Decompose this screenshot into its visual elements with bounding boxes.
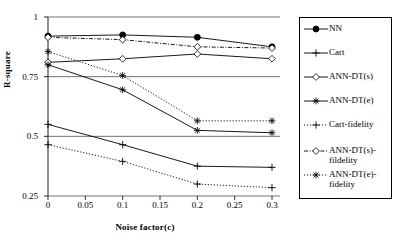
series-cart bbox=[44, 121, 275, 171]
marker-open-diamond bbox=[269, 55, 276, 62]
legend-label-line1: ANN-DT(s)- bbox=[329, 145, 376, 155]
legend-label-line1: ANN-DT(s) bbox=[329, 71, 373, 81]
legend-label: Cart-fidelity bbox=[329, 118, 374, 129]
legend-key-open-diamond-icon bbox=[303, 70, 329, 84]
marker-open-diamond bbox=[194, 43, 201, 50]
series-cart-fidelity bbox=[44, 141, 275, 191]
legend-key-plus-icon bbox=[303, 118, 329, 132]
legend-key-open-diamond-icon bbox=[303, 144, 329, 158]
legend-item[interactable]: ANN-DT(s) bbox=[300, 70, 391, 90]
legend-item[interactable]: NN bbox=[300, 22, 391, 42]
marker-filled-circle bbox=[194, 34, 200, 40]
legend-key-plus-icon bbox=[303, 46, 329, 60]
legend-item[interactable]: ANN-DT(e) bbox=[300, 94, 391, 114]
x-axis-title: Noise factor(c) bbox=[0, 222, 290, 232]
legend-key-asterisk-icon bbox=[303, 94, 329, 108]
series-ann-dte-fidelity bbox=[45, 48, 276, 124]
legend-label-line2: fidelity bbox=[329, 179, 376, 189]
series-line bbox=[48, 124, 272, 167]
legend-label-line1: ANN-DT(e)- bbox=[329, 169, 376, 179]
legend-label: ANN-DT(e)-fidelity bbox=[329, 168, 376, 189]
series-nn bbox=[45, 32, 275, 50]
plot-area: R-square 0.25 0.5 0.75 1 00.050.10.150.2… bbox=[0, 0, 290, 240]
legend-label: ANN-DT(s) bbox=[329, 70, 373, 81]
plot-canvas bbox=[0, 0, 290, 240]
series-line bbox=[48, 35, 272, 47]
legend-label-line2: fildelity bbox=[329, 155, 376, 165]
legend-item[interactable]: Cart-fidelity bbox=[300, 118, 391, 138]
series-line bbox=[48, 54, 272, 62]
legend-label: Cart bbox=[329, 46, 345, 57]
series-ann-dte bbox=[45, 61, 276, 136]
legend-label: ANN-DT(s)-fildelity bbox=[329, 144, 376, 165]
legend-label: ANN-DT(e) bbox=[329, 94, 373, 105]
marker-open-diamond bbox=[313, 74, 320, 81]
legend-label-line1: Cart-fidelity bbox=[329, 119, 374, 129]
legend-key-asterisk-icon bbox=[303, 168, 329, 182]
legend-label: NN bbox=[329, 22, 342, 33]
marker-filled-circle bbox=[313, 26, 319, 32]
legend-item[interactable]: ANN-DT(s)-fildelity bbox=[300, 144, 391, 164]
series-line bbox=[48, 145, 272, 188]
legend-label-line1: ANN-DT(e) bbox=[329, 95, 373, 105]
legend-label-line1: NN bbox=[329, 23, 342, 33]
legend-label-line1: Cart bbox=[329, 47, 345, 57]
marker-open-diamond bbox=[313, 148, 320, 155]
legend: NNCartANN-DT(s)ANN-DT(e)Cart-fidelityANN… bbox=[299, 17, 392, 199]
series-ann-dts bbox=[45, 51, 276, 66]
legend-key-filled-circle-icon bbox=[303, 22, 329, 36]
legend-item[interactable]: ANN-DT(e)-fidelity bbox=[300, 168, 391, 188]
marker-open-diamond bbox=[119, 55, 126, 62]
legend-items: NNCartANN-DT(s)ANN-DT(e)Cart-fidelityANN… bbox=[300, 18, 391, 198]
marker-open-diamond bbox=[194, 51, 201, 58]
legend-item[interactable]: Cart bbox=[300, 46, 391, 66]
series-line bbox=[48, 65, 272, 133]
chart-figure: R-square 0.25 0.5 0.75 1 00.050.10.150.2… bbox=[0, 0, 397, 240]
